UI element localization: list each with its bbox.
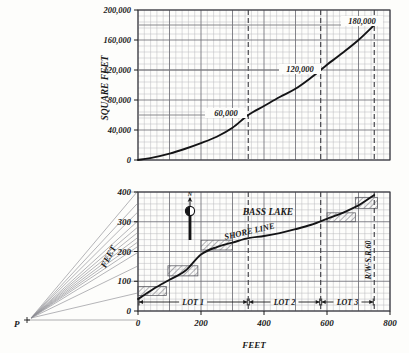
balance-block-0 (138, 287, 166, 296)
upper-annotation-2: 60,000 (214, 108, 238, 118)
lower-x-tick-4: 800 (383, 318, 397, 328)
lower-x-axis-label: FEET (241, 340, 266, 350)
upper-y-tick-0: 200,000 (102, 5, 131, 15)
lower-x-tick-0: 0 (136, 318, 141, 328)
survey-figure: 200,000160,000120,00080,00040,0000 SQUAR… (0, 0, 409, 353)
point-p-label: P (14, 319, 20, 329)
lower-y-tick-2: 200 (117, 247, 132, 257)
upper-y-tick-3: 80,000 (108, 95, 132, 105)
balance-block-4 (355, 197, 377, 208)
compass-staff (189, 216, 192, 240)
lower-x-tick-3: 600 (320, 318, 334, 328)
upper-y-axis-label: SQUARE FEET (100, 54, 110, 120)
lower-y-tick-3: 100 (118, 276, 132, 286)
lower-y-tick-0: 400 (117, 187, 132, 197)
lower-x-tick-2: 400 (256, 318, 271, 328)
lot-label-1: LOT 2 (273, 298, 296, 307)
upper-y-tick-1: 160,000 (103, 35, 131, 45)
lot-label-2: LOT 3 (336, 298, 359, 307)
upper-annotation-1: 120,000 (286, 64, 314, 74)
balance-block-2 (201, 240, 233, 250)
north-label: N (187, 191, 193, 197)
lower-y-tick-4: 0 (127, 306, 132, 316)
lake-label: BASS LAKE (242, 207, 293, 217)
upper-y-tick-4: 40,000 (107, 125, 132, 135)
lower-x-tick-1: 200 (193, 318, 208, 328)
lot-label-0: LOT 1 (181, 298, 204, 307)
balance-block-1 (168, 266, 198, 276)
drawing-sheet: 200,000160,000120,00080,00040,0000 SQUAR… (0, 0, 409, 353)
lower-y-tick-1: 300 (117, 217, 132, 227)
right-of-way-label: R/W-S.R.60 (364, 241, 373, 281)
upper-annotation-0: 180,000 (348, 16, 376, 26)
